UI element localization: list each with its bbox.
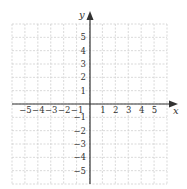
y-tick-label: 1 (81, 86, 86, 96)
y-tick-label: 4 (81, 46, 86, 56)
y-tick-label: 3 (81, 59, 86, 69)
x-tick-label: 1 (100, 105, 105, 115)
x-tick-label: 5 (152, 105, 157, 115)
y-tick-label: −4 (73, 152, 86, 162)
x-tick-label: −2 (58, 105, 71, 115)
x-axis-label: x (173, 105, 179, 116)
x-tick-label: 3 (126, 105, 131, 115)
x-tick-label: −5 (19, 105, 32, 115)
y-tick-label: −3 (73, 139, 86, 149)
y-tick-label: 5 (81, 32, 86, 42)
x-tick-label: −4 (32, 105, 45, 115)
x-tick-label: 4 (139, 105, 144, 115)
y-tick-label: 2 (81, 72, 86, 82)
x-tick-label: −3 (45, 105, 58, 115)
y-tick-label: −2 (73, 126, 86, 136)
y-tick-label: −5 (73, 166, 86, 176)
coordinate-plane: x y −5−4−3−2−112345 54321−1−2−3−4−5 (0, 0, 187, 189)
y-axis-arrow-icon (87, 11, 94, 20)
y-tick-label: −1 (73, 112, 86, 122)
x-tick-label: 2 (113, 105, 118, 115)
y-axis-label: y (78, 9, 85, 20)
x-tick-labels: −5−4−3−2−112345 (19, 105, 157, 115)
